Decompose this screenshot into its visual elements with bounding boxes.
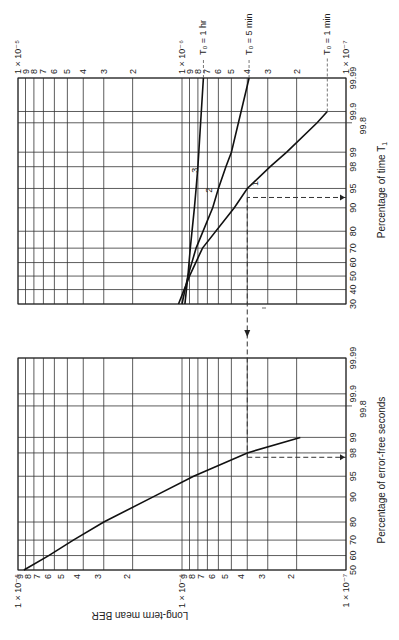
ber-tick-lower: 7 <box>196 574 206 579</box>
ber-tick-lower: 7 <box>32 574 42 579</box>
ber-tick-lower: 2 <box>122 574 132 579</box>
curve-1-label: 1 <box>250 181 260 186</box>
lower-panel-grid <box>18 358 346 570</box>
ber-tick-lower: 4 <box>236 574 246 579</box>
upper-pct-tick: 95 <box>348 183 358 193</box>
upper-x-axis-title: Percentage of time T1 <box>376 142 388 239</box>
lower-pct-tick: 99.8 <box>358 400 368 418</box>
upper-pct-tick: 80 <box>348 226 358 236</box>
arrow-head-lower <box>340 454 345 460</box>
lower-pct-tick: 70 <box>348 535 358 545</box>
ber-tick-1e-5-upper: 1 × 10⁻⁵ <box>13 40 23 74</box>
upper-pct-tick: 99.99 <box>348 67 358 90</box>
lower-pct-tick: 99.99 <box>348 347 358 370</box>
ber-tick-lower: 3 <box>93 574 103 579</box>
upper-pct-tick: 99.8 <box>358 117 368 135</box>
ber-tick-2-upper: 2 <box>292 69 302 74</box>
upper-pct-tick: 99.9 <box>348 103 358 121</box>
ber-tick-3-upper: 3 <box>99 69 109 74</box>
y-axis-title: Long-term mean BER <box>92 610 189 621</box>
ber-tick-lower: 5 <box>56 574 66 579</box>
ber-tick-5-upper: 5 <box>226 69 236 74</box>
lower-pct-tick: 50 <box>348 565 358 575</box>
ber-tick-lower: 3 <box>257 574 267 579</box>
lower-pct-tick: 99 <box>348 432 358 442</box>
ber-tick-lower: 6 <box>43 574 53 579</box>
ber-tick-8-upper: 8 <box>193 69 203 74</box>
t0-1hr-label: T₀ = 1 hr <box>198 20 208 55</box>
ber-tick-6-upper: 6 <box>213 69 223 74</box>
lower-pct-tick: 60 <box>348 551 358 561</box>
lower-pct-tick: 95 <box>348 471 358 481</box>
ber-tick-lower: 4 <box>72 574 82 579</box>
ber-tick-7-upper: 7 <box>38 69 48 74</box>
upper-pct-tick: 30 <box>348 299 358 309</box>
ber-tick-4-upper: 4 <box>242 69 252 74</box>
t0-1min-label: T₀ = 1 min <box>322 14 332 56</box>
upper-pct-tick: 99 <box>348 147 358 157</box>
arrow-head-transfer <box>244 330 250 337</box>
ber-tick-lower: 1 × 10⁻⁵ <box>13 574 23 608</box>
lower-x-axis-title: Percentage of error-free seconds <box>376 397 387 544</box>
ber-tick-3-upper: 3 <box>263 69 273 74</box>
curve-3-label: 3 <box>190 168 200 173</box>
upper-pct-tick: 90 <box>348 203 358 213</box>
ber-tick-2-upper: 2 <box>128 69 138 74</box>
upper-pct-tick: 50 <box>348 271 358 281</box>
ber-tick-lower: 8 <box>187 574 197 579</box>
ber-tick-8-upper: 8 <box>29 69 39 74</box>
arrow-head-upper <box>340 194 345 200</box>
ber-tick-6-upper: 6 <box>49 69 59 74</box>
curve-3 <box>185 78 204 304</box>
upper-pct-tick: 60 <box>348 258 358 268</box>
upper-pct-tick: 40 <box>348 285 358 295</box>
ber-tick-lower: 1 × 10⁻⁶ <box>177 574 187 608</box>
ber-tick-5-upper: 5 <box>62 69 72 74</box>
lower-pct-tick: 90 <box>348 492 358 502</box>
ber-tick-4-upper: 4 <box>78 69 88 74</box>
ber-tick-7-upper: 7 <box>202 69 212 74</box>
chart-canvas: 98765432987654321 × 10⁻⁵1 × 10⁻⁶1 × 10⁻⁷… <box>0 0 399 640</box>
upper-pct-tick: 98 <box>348 162 358 172</box>
lower-pct-tick: 98 <box>348 448 358 458</box>
ber-tick-lower: 6 <box>207 574 217 579</box>
upper-panel-grid <box>18 78 346 304</box>
lower-pct-tick: 99.9 <box>348 385 358 403</box>
lower-pct-tick: 80 <box>348 517 358 527</box>
ber-tick-1e-6-upper: 1 × 10⁻⁶ <box>177 40 187 74</box>
ber-tick-lower: 1 × 10⁻⁷ <box>341 574 351 608</box>
t0-5min-label: T₀ = 5 min <box>244 14 254 56</box>
ber-tick-lower: 5 <box>220 574 230 579</box>
ber-tick-lower: 8 <box>23 574 33 579</box>
ber-tick-lower: 2 <box>286 574 296 579</box>
curve-2-label: 2 <box>204 188 214 193</box>
upper-pct-tick: 70 <box>348 243 358 253</box>
